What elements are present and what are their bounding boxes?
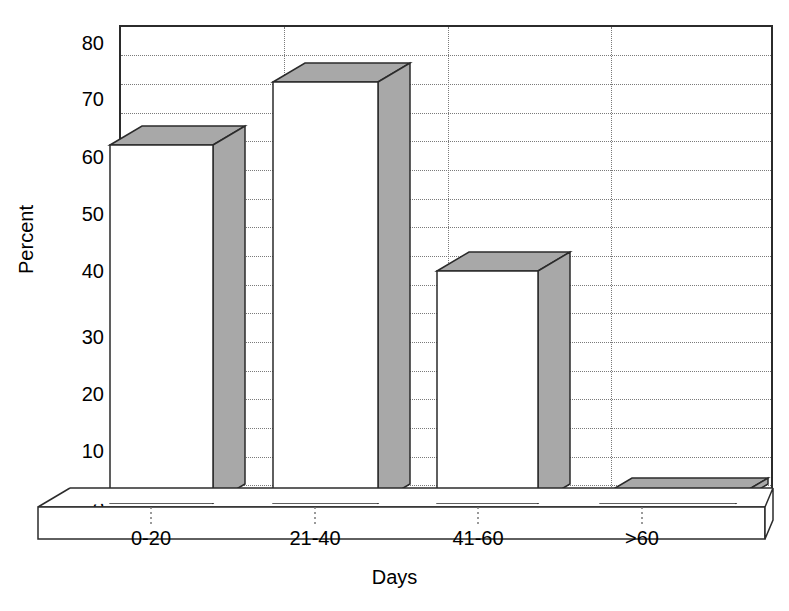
x-tick-label-gt60: >60 [562, 527, 722, 550]
base-slab-shape [0, 0, 789, 611]
x-tick-label-41-60: 41-60 [398, 527, 558, 550]
bar-chart: Percent 0 10 20 30 40 50 60 70 80 [0, 0, 789, 611]
x-axis-title: Days [0, 566, 789, 589]
x-tick-label-21-40: 21-40 [235, 527, 395, 550]
base-slab [0, 0, 789, 611]
x-tick-label-0-20: 0-20 [71, 527, 231, 550]
